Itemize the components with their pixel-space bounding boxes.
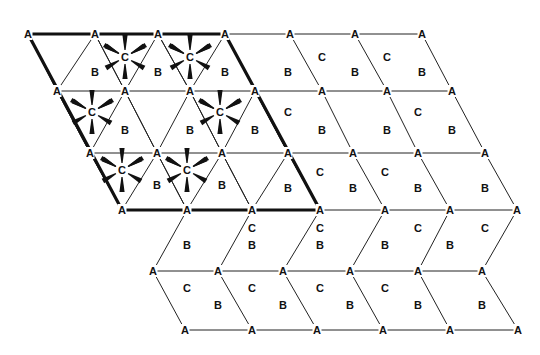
column-line	[153, 271, 185, 330]
b-site-label: B	[316, 239, 324, 251]
a-site-label: A	[349, 147, 357, 159]
triangle-diagonal	[190, 34, 225, 91]
b-site-label: B	[153, 179, 161, 191]
column-line	[153, 210, 187, 271]
b-site-label: B	[414, 182, 422, 194]
c-site-label: C	[118, 164, 126, 176]
b-site-label: B	[183, 239, 191, 251]
a-site-label: A	[318, 85, 326, 97]
b-site-label: B	[346, 299, 354, 311]
a-site-label: A	[91, 28, 99, 40]
a-site-label: A	[351, 28, 359, 40]
a-site-label: A	[183, 204, 191, 216]
b-site-label: B	[481, 182, 489, 194]
c-site-label: C	[383, 51, 391, 63]
column-line	[387, 91, 418, 153]
b-site-label: B	[218, 179, 226, 191]
b-site-label: B	[349, 182, 357, 194]
a-site-label: A	[514, 324, 522, 336]
a-site-label: A	[121, 85, 129, 97]
a-site-label: A	[414, 147, 422, 159]
column-line	[482, 271, 518, 330]
b-site-label: B	[279, 299, 287, 311]
column-line	[218, 210, 252, 271]
a-site-label: A	[481, 147, 489, 159]
b-site-label: B	[418, 66, 426, 78]
a-site-label: A	[86, 147, 94, 159]
c-site-label: C	[318, 51, 326, 63]
a-site-label: A	[446, 204, 454, 216]
c-site-label: C	[216, 106, 224, 118]
column-line	[350, 210, 385, 271]
a-site-label: A	[248, 204, 256, 216]
b-site-label: B	[414, 299, 422, 311]
c-site-label: C	[316, 166, 324, 178]
column-line	[218, 271, 252, 330]
bond-wedge	[89, 90, 94, 105]
a-site-label: A	[186, 85, 194, 97]
c-site-label: C	[481, 222, 489, 234]
b-site-label: B	[251, 124, 259, 136]
b-site-label: B	[186, 124, 194, 136]
b-site-label: B	[351, 66, 359, 78]
b-site-label: B	[383, 124, 391, 136]
c-site-label: C	[186, 51, 194, 63]
a-site-label: A	[418, 28, 426, 40]
b-site-label: B	[121, 124, 129, 136]
bond-wedge	[226, 115, 241, 125]
bond-wedge	[105, 60, 120, 70]
a-site-label: A	[279, 265, 287, 277]
c-site-label: C	[183, 164, 191, 176]
a-site-label: A	[381, 204, 389, 216]
column-line	[283, 271, 317, 330]
a-site-label: A	[316, 204, 324, 216]
b-site-label: B	[214, 299, 222, 311]
b-site-label: B	[448, 124, 456, 136]
bond-wedge	[217, 119, 222, 134]
c-site-label: C	[316, 282, 324, 294]
b-site-label: B	[154, 66, 162, 78]
a-site-label: A	[154, 28, 162, 40]
bond-wedge	[184, 177, 189, 192]
a-site-label: A	[383, 85, 391, 97]
a-site-label: A	[286, 28, 294, 40]
triangle-diagonal	[57, 34, 95, 91]
a-site-label: A	[118, 204, 126, 216]
a-site-label: A	[251, 85, 259, 97]
b-site-label: B	[478, 299, 486, 311]
c-site-label: C	[414, 222, 422, 234]
a-site-label: A	[214, 265, 222, 277]
column-line	[422, 34, 452, 91]
c-site-label: C	[248, 282, 256, 294]
a-site-label: A	[284, 147, 292, 159]
bond-wedge	[119, 177, 124, 192]
triangle-diagonal	[157, 91, 190, 153]
a-site-label: A	[379, 324, 387, 336]
a-site-label: A	[513, 204, 521, 216]
c-site-label: C	[248, 222, 256, 234]
a-site-label: A	[414, 265, 422, 277]
column-line	[283, 210, 320, 271]
b-site-label: B	[91, 66, 99, 78]
a-site-label: A	[153, 147, 161, 159]
c-site-label: C	[88, 106, 96, 118]
bond-wedge	[128, 173, 143, 183]
c-site-label: C	[121, 51, 129, 63]
c-site-label: C	[381, 166, 389, 178]
b-site-label: B	[221, 66, 229, 78]
column-line	[452, 91, 485, 153]
a-site-label: A	[53, 85, 61, 97]
c-site-label: C	[284, 106, 292, 118]
bond-wedge	[193, 173, 208, 183]
lattice-diagram: BBBBBBBBBBBBBBBBBBBBBBBBBBBB CCCCCCCCCCC…	[0, 0, 540, 355]
a-site-label: A	[478, 265, 486, 277]
bond-wedge	[122, 35, 127, 50]
triangle-diagonal	[125, 91, 157, 153]
bond-wedge	[119, 148, 124, 163]
c-site-label: C	[381, 282, 389, 294]
b-site-label: B	[381, 239, 389, 251]
column-line	[482, 210, 517, 271]
bond-wedge	[122, 64, 127, 79]
b-site-label: B	[284, 66, 292, 78]
a-site-label: A	[24, 28, 32, 40]
